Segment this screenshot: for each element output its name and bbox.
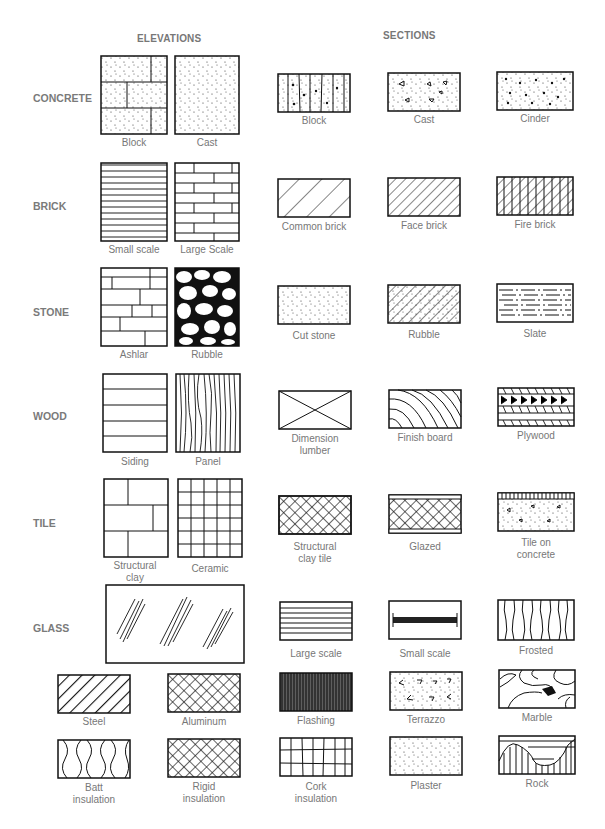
caption-stone-ashlar: Ashlar: [100, 349, 168, 361]
row-label-brick: BRICK: [33, 200, 66, 212]
elevations-header: ELEVATIONS: [137, 33, 201, 44]
caption-section-common-brick: Common brick: [272, 221, 356, 233]
section-common-brick-symbol: [277, 178, 351, 218]
section-fire-brick-symbol: [496, 176, 574, 216]
steel-symbol: [57, 674, 131, 714]
tile-ceramic-symbol: [177, 478, 243, 558]
concrete-block-elevation-symbol: [100, 55, 168, 135]
caption-line: lumber: [300, 445, 331, 456]
brick-large-scale-symbol: [174, 162, 240, 242]
section-glass-large-scale-symbol: [279, 601, 353, 641]
caption-cork-insulation: Corkinsulation: [279, 781, 353, 805]
section-cut-stone-symbol: [277, 285, 351, 325]
caption-section-concrete-block: Block: [277, 115, 351, 127]
caption-line: insulation: [73, 794, 115, 805]
caption-section-concrete-cast: Cast: [387, 114, 461, 126]
caption-flashing: Flashing: [279, 715, 353, 727]
caption-line: Rigid: [193, 781, 216, 792]
row-label-tile: TILE: [33, 517, 56, 529]
caption-section-finish-board: Finish board: [383, 432, 467, 444]
caption-tile-ceramic: Ceramic: [177, 563, 243, 575]
caption-line: clay: [126, 572, 144, 583]
caption-line: insulation: [295, 793, 337, 804]
caption-line: insulation: [183, 793, 225, 804]
caption-brick-small-scale: Small scale: [96, 244, 172, 256]
section-glass-frosted-symbol: [497, 599, 575, 641]
caption-section-cut-stone: Cut stone: [277, 330, 351, 342]
cork-insulation-symbol: [279, 737, 353, 777]
concrete-cast-elevation-symbol: [174, 55, 240, 135]
caption-rigid-insulation: Rigidinsulation: [167, 781, 241, 805]
terrazzo-symbol: [389, 671, 463, 711]
caption-aluminum: Aluminum: [167, 716, 241, 728]
caption-line: Cork: [305, 781, 326, 792]
caption-line: Tile on: [521, 537, 551, 548]
flashing-symbol: [279, 672, 353, 712]
row-label-glass: GLASS: [33, 622, 69, 634]
section-glass-small-scale-symbol: [388, 600, 462, 640]
caption-tile-structural-clay: Structuralclay: [100, 560, 170, 584]
caption-section-stone-rubble: Rubble: [387, 329, 461, 341]
rigid-insulation-symbol: [167, 738, 241, 778]
section-slate-symbol: [496, 283, 574, 323]
section-concrete-block-symbol: [277, 73, 351, 113]
caption-line: Dimension: [291, 433, 338, 444]
marble-symbol: [498, 669, 576, 709]
glass-elevation-symbol: [105, 584, 245, 664]
caption-brick-large-scale: Large Scale: [170, 244, 244, 256]
caption-wood-siding: Siding: [102, 456, 168, 468]
wood-siding-symbol: [102, 373, 168, 453]
section-structural-clay-tile-symbol: [278, 495, 352, 535]
caption-rock: Rock: [498, 778, 576, 790]
caption-steel: Steel: [57, 716, 131, 728]
caption-section-glazed: Glazed: [388, 541, 462, 553]
section-finish-board-symbol: [388, 389, 462, 429]
caption-batt-insulation: Battinsulation: [57, 782, 131, 806]
wood-panel-symbol: [175, 373, 241, 453]
caption-stone-rubble-elev: Rubble: [174, 349, 240, 361]
caption-section-glass-frosted: Frosted: [497, 645, 575, 657]
caption-marble: Marble: [498, 712, 576, 724]
caption-concrete-cast-elev: Cast: [174, 137, 240, 149]
caption-section-tile-on-concrete: Tile onconcrete: [497, 537, 575, 561]
caption-section-glass-large-scale: Large scale: [274, 648, 358, 660]
tile-structural-clay-symbol: [103, 478, 169, 558]
caption-section-plywood: Plywood: [497, 430, 575, 442]
caption-line: Batt: [85, 782, 103, 793]
section-concrete-cast-symbol: [387, 72, 461, 112]
caption-plaster: Plaster: [389, 780, 463, 792]
row-label-wood: WOOD: [33, 410, 67, 422]
caption-line: concrete: [517, 549, 555, 560]
caption-terrazzo: Terrazzo: [389, 714, 463, 726]
row-label-stone: STONE: [33, 306, 69, 318]
section-dimension-lumber-symbol: [278, 390, 352, 430]
batt-insulation-symbol: [57, 739, 131, 779]
caption-section-face-brick: Face brick: [382, 220, 466, 232]
section-tile-on-concrete-symbol: [497, 492, 575, 532]
caption-section-glass-small-scale: Small scale: [383, 648, 467, 660]
brick-small-scale-symbol: [100, 162, 168, 242]
section-concrete-cinder-symbol: [496, 71, 574, 111]
row-label-concrete: CONCRETE: [33, 92, 92, 104]
stone-ashlar-symbol: [100, 267, 168, 347]
plaster-symbol: [389, 736, 463, 776]
stone-rubble-symbol: [174, 267, 240, 347]
caption-wood-panel: Panel: [175, 456, 241, 468]
caption-concrete-block-elev: Block: [100, 137, 168, 149]
caption-line: clay tile: [298, 553, 331, 564]
section-glazed-tile-symbol: [388, 494, 462, 534]
caption-section-slate: Slate: [496, 328, 574, 340]
sections-header: SECTIONS: [383, 30, 436, 41]
caption-section-dimension-lumber: Dimensionlumber: [277, 433, 353, 457]
section-plywood-symbol: [497, 387, 575, 427]
caption-section-fire-brick: Fire brick: [496, 219, 574, 231]
section-stone-rubble-symbol: [387, 284, 461, 324]
caption-line: Structural: [114, 560, 157, 571]
rock-symbol: [498, 735, 576, 775]
caption-section-structural-clay-tile: Structuralclay tile: [275, 541, 355, 565]
aluminum-symbol: [167, 673, 241, 713]
section-face-brick-symbol: [387, 177, 461, 217]
caption-line: Structural: [294, 541, 337, 552]
caption-section-concrete-cinder: Cinder: [496, 113, 574, 125]
